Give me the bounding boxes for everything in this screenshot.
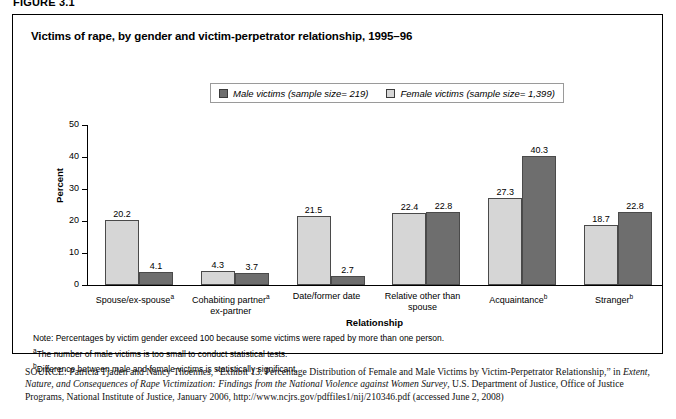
category-footnote-marker: b bbox=[544, 293, 548, 300]
y-axis-tick: 30 bbox=[82, 189, 87, 190]
source-text-1: Patricia Tjaden and Nancy Thoennes, “Exh… bbox=[67, 366, 623, 377]
bar-female: 21.5 bbox=[297, 216, 331, 285]
y-axis-tick: 40 bbox=[82, 157, 87, 158]
male-swatch-icon bbox=[219, 89, 228, 98]
bar-male: 40.3 bbox=[522, 156, 556, 285]
bar-value-label: 27.3 bbox=[496, 187, 514, 197]
female-swatch-icon bbox=[386, 89, 395, 98]
source-label: SOURCE: bbox=[25, 366, 67, 377]
category-label-line1: Spouse/ex-spouse bbox=[96, 295, 171, 305]
source-citation: SOURCE: Patricia Tjaden and Nancy Thoenn… bbox=[25, 366, 655, 403]
bar-male: 2.7 bbox=[331, 276, 365, 285]
x-axis-title: Relationship bbox=[87, 317, 662, 328]
category-label-line1: Relative other than bbox=[385, 291, 461, 301]
legend-label-male: Male victims (sample size= 219) bbox=[233, 88, 368, 99]
category-label: Strangerb bbox=[556, 291, 672, 306]
bar-value-label: 22.8 bbox=[626, 201, 644, 211]
legend-label-female: Female victims (sample size= 1,399) bbox=[400, 88, 554, 99]
y-axis-tick: 10 bbox=[82, 253, 87, 254]
bar-value-label: 21.5 bbox=[305, 205, 323, 215]
bar-female: 4.3 bbox=[201, 271, 235, 285]
bar-group: 20.24.1 bbox=[105, 125, 173, 285]
y-axis-tick-label: 30 bbox=[69, 183, 79, 193]
figure-label: FIGURE 3.1 bbox=[13, 0, 75, 8]
chart-legend: Male victims (sample size= 219) Female v… bbox=[210, 83, 564, 103]
bar-group: 22.422.8 bbox=[392, 125, 460, 285]
y-axis-line bbox=[87, 125, 88, 286]
bar-male: 4.1 bbox=[139, 272, 173, 285]
y-axis-tick-label: 50 bbox=[69, 119, 79, 129]
bar-group: 4.33.7 bbox=[201, 125, 269, 285]
legend-item-female: Female victims (sample size= 1,399) bbox=[386, 88, 554, 99]
bar-male: 3.7 bbox=[235, 273, 269, 285]
category-footnote-marker: b bbox=[630, 293, 634, 300]
bar-male: 22.8 bbox=[618, 212, 652, 285]
page-title: Victims of rape, by gender and victim-pe… bbox=[31, 30, 412, 42]
category-label-line2: spouse bbox=[408, 302, 437, 312]
bar-value-label: 3.7 bbox=[245, 262, 258, 272]
y-axis-tick-label: 10 bbox=[69, 247, 79, 257]
category-label-line1: Stranger bbox=[595, 295, 630, 305]
bar-value-label: 18.7 bbox=[592, 214, 610, 224]
bar-value-label: 22.8 bbox=[435, 201, 453, 211]
bar-group: 21.52.7 bbox=[297, 125, 365, 285]
y-axis-tick: 20 bbox=[82, 221, 87, 222]
bar-value-label: 22.4 bbox=[401, 202, 419, 212]
y-axis-tick-label: 40 bbox=[69, 151, 79, 161]
category-label-line1: Cohabiting partner bbox=[192, 295, 266, 305]
y-axis-tick: 0 bbox=[82, 285, 87, 286]
note-general: Note: Percentages by victim gender excee… bbox=[33, 333, 444, 345]
bar-value-label: 20.2 bbox=[113, 209, 131, 219]
category-label-line1: Date/former date bbox=[293, 291, 361, 301]
y-axis-tick-label: 20 bbox=[69, 215, 79, 225]
bar-female: 27.3 bbox=[488, 198, 522, 285]
x-axis-line bbox=[87, 285, 662, 286]
bar-group: 27.340.3 bbox=[488, 125, 556, 285]
category-label-line2: ex-partner bbox=[210, 306, 251, 316]
y-axis-tick: 50 bbox=[82, 125, 87, 126]
note-footnote-a: aThe number of male victims is too small… bbox=[33, 345, 444, 360]
bar-group: 18.722.8 bbox=[584, 125, 652, 285]
bar-value-label: 40.3 bbox=[530, 145, 548, 155]
plot-area: Percent 01020304050 20.24.14.33.721.52.7… bbox=[87, 125, 662, 286]
y-axis-tick-label: 0 bbox=[74, 279, 79, 289]
category-label-line1: Acquaintance bbox=[489, 295, 544, 305]
legend-item-male: Male victims (sample size= 219) bbox=[219, 88, 368, 99]
bar-value-label: 2.7 bbox=[341, 265, 354, 275]
bar-female: 18.7 bbox=[584, 225, 618, 285]
bar-male: 22.8 bbox=[426, 212, 460, 285]
bar-value-label: 4.1 bbox=[150, 261, 163, 271]
bar-female: 20.2 bbox=[105, 220, 139, 285]
y-axis-title: Percent bbox=[54, 156, 65, 216]
bar-value-label: 4.3 bbox=[211, 260, 224, 270]
figure-box: Victims of rape, by gender and victim-pe… bbox=[12, 14, 663, 354]
bar-female: 22.4 bbox=[392, 213, 426, 285]
footnote-a-text: The number of male victims is too small … bbox=[37, 348, 288, 358]
